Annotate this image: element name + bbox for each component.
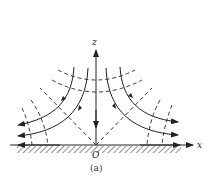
streamline-right-outer xyxy=(120,67,178,122)
equipotential-top-2 xyxy=(52,80,142,92)
streamline-right-inner xyxy=(106,68,178,135)
streamline-left-inner xyxy=(18,68,88,136)
equipotential-left-2 xyxy=(31,100,48,145)
x-axis-label: x xyxy=(197,140,202,150)
equipotential-right-2 xyxy=(147,100,160,145)
flow-diagram: z x O (a) xyxy=(0,0,217,187)
arrow-mid-left-inner xyxy=(78,105,82,111)
streamline-left-outer xyxy=(18,67,74,125)
equipotential-right-1 xyxy=(162,105,172,145)
origin-label: O xyxy=(92,150,100,160)
z-axis-label: z xyxy=(91,37,97,47)
diagonal-right xyxy=(96,88,152,145)
equipotential-left-1 xyxy=(22,108,32,145)
figure-caption: (a) xyxy=(90,163,102,173)
